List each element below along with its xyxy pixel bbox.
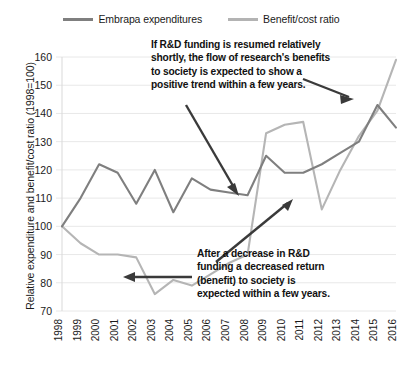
x-tick-label: 2004 bbox=[164, 319, 175, 342]
x-tick-label: 2003 bbox=[146, 319, 157, 342]
series-line-embrapa-expenditures bbox=[62, 105, 396, 226]
y-tick-label: 110 bbox=[35, 192, 52, 204]
x-tick-label: 2012 bbox=[313, 319, 324, 342]
x-tick-labels-group: 1998199920002001200220032004200520062007… bbox=[53, 319, 398, 342]
annotation-top-line-2: shortly, the flow of research's benefits bbox=[151, 51, 347, 64]
y-tick-label: 140 bbox=[34, 107, 52, 119]
annotation-top-line-4: positive trend within a few years. bbox=[151, 78, 347, 91]
x-tick-label: 2009 bbox=[257, 319, 268, 342]
annotation-bottom-line-2: funding a decreased return bbox=[197, 260, 349, 273]
y-tick-label: 160 bbox=[34, 51, 52, 63]
callout-arrow-top-left bbox=[186, 105, 239, 196]
x-tick-label: 2007 bbox=[220, 319, 231, 342]
y-tick-label: 150 bbox=[34, 79, 52, 91]
x-tick-label: 1998 bbox=[53, 319, 64, 342]
annotation-bottom-line-3: (benefit) to society is bbox=[197, 274, 349, 287]
x-tick-label: 2013 bbox=[331, 319, 342, 342]
callout-arrow-bottom-left bbox=[123, 272, 192, 282]
x-tick-label: 2005 bbox=[183, 319, 194, 342]
annotation-top-line-1: If R&D funding is resumed relatively bbox=[151, 38, 347, 51]
annotation-bottom-line-1: After a decrease in R&D bbox=[197, 247, 349, 260]
x-tick-label: 1999 bbox=[72, 319, 83, 342]
x-tick-label: 2001 bbox=[109, 319, 120, 342]
x-tick-label: 2011 bbox=[294, 319, 305, 341]
chart-figure: Embrapa expenditures Benefit/cost ratio … bbox=[0, 0, 403, 370]
annotation-bottom-text: After a decrease in R&D funding a decrea… bbox=[197, 247, 349, 301]
y-tick-label: 100 bbox=[34, 220, 52, 232]
x-tick-label: 2008 bbox=[239, 319, 250, 342]
x-tick-label: 2010 bbox=[276, 319, 287, 342]
x-tick-label: 2015 bbox=[368, 319, 379, 342]
annotation-top-text: If R&D funding is resumed relatively sho… bbox=[151, 38, 347, 92]
y-tick-labels-group: 708090100110120130140150160 bbox=[34, 51, 52, 317]
annotation-top-line-3: to society is expected to show a bbox=[151, 65, 347, 78]
x-tick-label: 2000 bbox=[90, 319, 101, 342]
y-tick-label: 130 bbox=[34, 136, 52, 148]
x-tick-label: 2002 bbox=[127, 319, 138, 342]
y-tick-label: 70 bbox=[40, 305, 52, 317]
y-tick-label: 120 bbox=[34, 164, 52, 176]
x-tick-label: 2016 bbox=[387, 319, 398, 342]
y-tick-label: 90 bbox=[40, 249, 52, 261]
x-tick-label: 2014 bbox=[350, 319, 361, 342]
x-tick-label: 2006 bbox=[201, 319, 212, 342]
y-tick-label: 80 bbox=[40, 277, 52, 289]
annotation-bottom-line-4: expected within a few years. bbox=[197, 287, 349, 300]
